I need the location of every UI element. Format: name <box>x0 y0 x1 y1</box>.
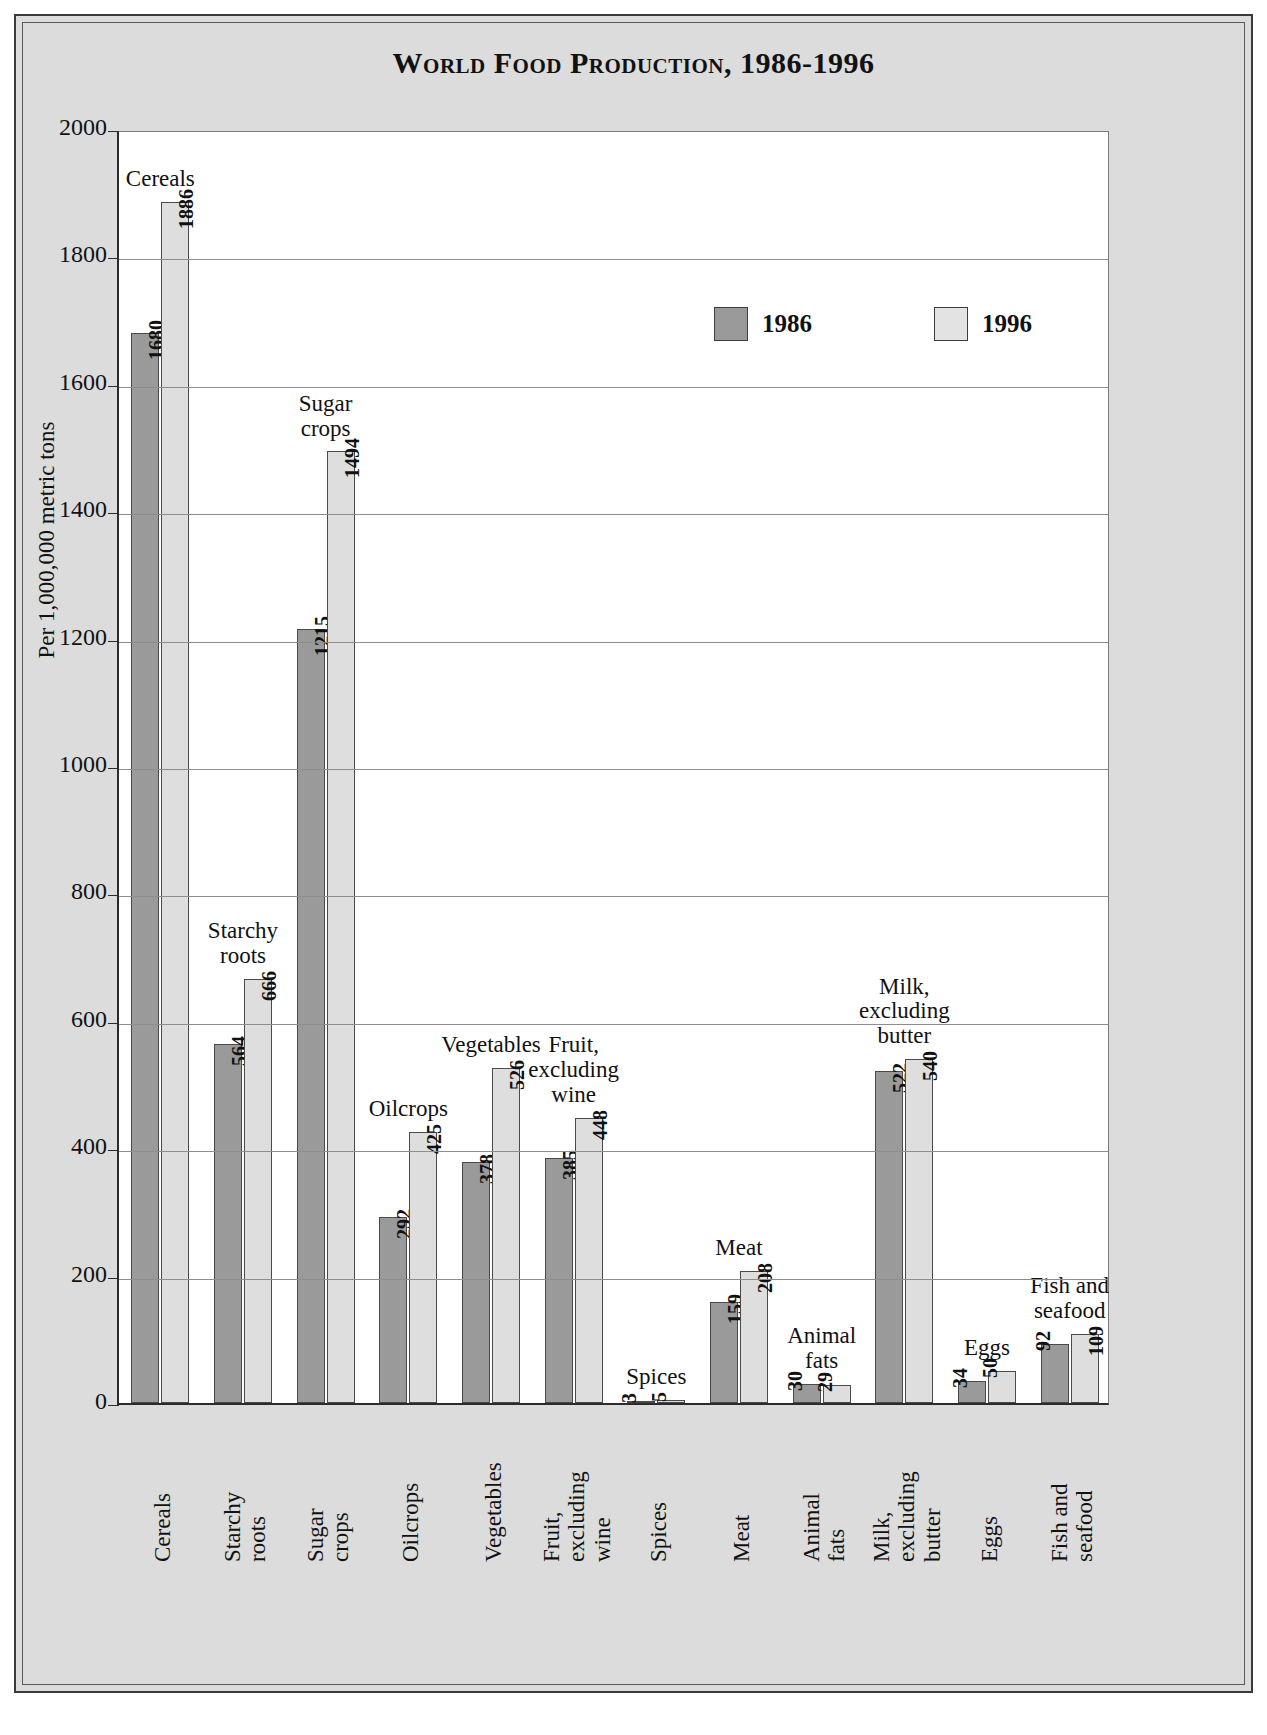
bar-value-label: 34 <box>949 1368 972 1388</box>
y-axis-tick-label: 0 <box>0 1388 107 1415</box>
gridline <box>119 259 1108 260</box>
bar-group: 92109Fish and seafood <box>1041 132 1099 1403</box>
chart-page: World Food Production, 1986-1996 Per 1,0… <box>0 0 1267 1735</box>
bar-1996[interactable]: 1494 <box>327 451 355 1403</box>
y-axis-tick-label: 600 <box>0 1006 107 1033</box>
y-axis-tick-mark <box>108 131 119 132</box>
bar-1986[interactable]: 385 <box>545 1158 573 1403</box>
bar-1996[interactable]: 29 <box>823 1385 851 1403</box>
legend-item-1996[interactable]: 1996 <box>934 307 1032 341</box>
x-axis-tick-label: Starchy roots <box>220 1402 271 1562</box>
bar-value-label: 448 <box>589 1110 612 1140</box>
bar-1986[interactable]: 378 <box>462 1162 490 1403</box>
gridline <box>119 1024 1108 1025</box>
y-axis-tick-mark <box>108 513 119 514</box>
bar-1996[interactable]: 1886 <box>161 202 189 1403</box>
legend-label-1986: 1986 <box>762 310 812 338</box>
x-axis-tick-label: Oilcrops <box>398 1402 423 1562</box>
bar-group: 564666Starchy roots <box>214 132 272 1403</box>
chart-title: World Food Production, 1986-1996 <box>0 46 1267 80</box>
y-axis-tick-mark <box>108 1150 119 1151</box>
bar-value-label: 3 <box>618 1393 641 1403</box>
y-axis-tick-mark <box>108 258 119 259</box>
bar-value-label: 5 <box>648 1392 671 1402</box>
chart-legend: 1986 1996 <box>714 307 1044 349</box>
bar-group-label: Fish and seafood <box>985 1274 1155 1324</box>
x-axis-tick-label: Milk, excluding butter <box>869 1402 945 1562</box>
legend-label-1996: 1996 <box>982 310 1032 338</box>
y-axis-title: Per 1,000,000 metric tons <box>34 380 60 700</box>
bar-group: 385448Fruit, excluding wine <box>545 132 603 1403</box>
bar-value-label: 1886 <box>175 189 198 229</box>
x-axis-tick-label: Meat <box>729 1402 754 1562</box>
bar-1996[interactable]: 448 <box>575 1118 603 1403</box>
x-axis-tick-label: Cereals <box>150 1402 175 1562</box>
gridline <box>119 1151 1108 1152</box>
y-axis-tick-label: 1600 <box>0 369 107 396</box>
bar-1986[interactable]: 564 <box>214 1044 242 1403</box>
bar-value-label: 208 <box>754 1263 777 1293</box>
bar-value-label: 92 <box>1032 1331 1055 1351</box>
x-axis-tick-label: Vegetables <box>481 1402 506 1562</box>
legend-item-1986[interactable]: 1986 <box>714 307 812 341</box>
bar-1986[interactable]: 1215 <box>297 629 325 1403</box>
y-axis-tick-mark <box>108 641 119 642</box>
x-axis-tick-labels: CerealsStarchy rootsSugar cropsOilcropsV… <box>117 1412 1109 1572</box>
bar-value-label: 425 <box>423 1124 446 1154</box>
y-axis-tick-label: 1400 <box>0 496 107 523</box>
legend-swatch-1986 <box>714 307 748 341</box>
bar-1986[interactable]: 292 <box>379 1217 407 1403</box>
y-axis-tick-mark <box>108 768 119 769</box>
y-axis-tick-label: 1000 <box>0 751 107 778</box>
bar-value-label: 50 <box>979 1358 1002 1378</box>
bar-group: 378526Vegetables <box>462 132 520 1403</box>
bar-value-label: 29 <box>814 1372 837 1392</box>
y-axis-tick-mark <box>108 1023 119 1024</box>
gridline <box>119 514 1108 515</box>
y-axis-tick-label: 200 <box>0 1261 107 1288</box>
bar-1996[interactable]: 526 <box>492 1068 520 1403</box>
bar-value-label: 109 <box>1085 1326 1108 1356</box>
bar-1986[interactable]: 522 <box>875 1071 903 1404</box>
x-axis-tick-label: Fruit, excluding wine <box>538 1402 614 1562</box>
bar-group: 292425Oilcrops <box>379 132 437 1403</box>
legend-swatch-1996 <box>934 307 968 341</box>
bar-1986[interactable]: 92 <box>1041 1344 1069 1403</box>
y-axis-tick-mark <box>108 1278 119 1279</box>
bar-value-label: 30 <box>784 1371 807 1391</box>
x-axis-tick-label: Spices <box>646 1402 671 1562</box>
bar-value-label: 666 <box>258 971 281 1001</box>
bar-group: 16801886Cereals <box>131 132 189 1403</box>
gridline <box>119 642 1108 643</box>
bar-1996[interactable]: 666 <box>244 979 272 1403</box>
bar-1996[interactable]: 109 <box>1071 1334 1099 1403</box>
bar-group: 12151494Sugar crops <box>297 132 355 1403</box>
bar-1996[interactable]: 50 <box>988 1371 1016 1403</box>
source-note <box>14 1712 1254 1734</box>
x-axis-tick-label: Fish and seafood <box>1047 1402 1098 1562</box>
bar-1986[interactable]: 1680 <box>131 333 159 1403</box>
y-axis-tick-label: 400 <box>0 1133 107 1160</box>
y-axis-tick-mark <box>108 895 119 896</box>
y-axis-tick-mark <box>108 386 119 387</box>
y-axis-tick-label: 1200 <box>0 624 107 651</box>
bar-1986[interactable]: 159 <box>710 1302 738 1403</box>
y-axis-tick-label: 800 <box>0 878 107 905</box>
bar-value-label: 1494 <box>341 438 364 478</box>
y-axis-tick-mark <box>108 1405 119 1406</box>
x-axis-tick-label: Sugar crops <box>303 1402 354 1562</box>
bar-1986[interactable]: 34 <box>958 1381 986 1403</box>
y-axis-tick-label: 1800 <box>0 241 107 268</box>
bar-group: 35Spices <box>627 132 685 1403</box>
bar-1996[interactable]: 425 <box>409 1132 437 1403</box>
x-axis-tick-label: Eggs <box>977 1402 1002 1562</box>
y-axis-tick-label: 2000 <box>0 114 107 141</box>
gridline <box>119 387 1108 388</box>
gridline <box>119 1279 1108 1280</box>
x-axis-tick-label: Animal fats <box>799 1402 850 1562</box>
gridline <box>119 769 1108 770</box>
bar-value-label: 540 <box>919 1051 942 1081</box>
gridline <box>119 896 1108 897</box>
